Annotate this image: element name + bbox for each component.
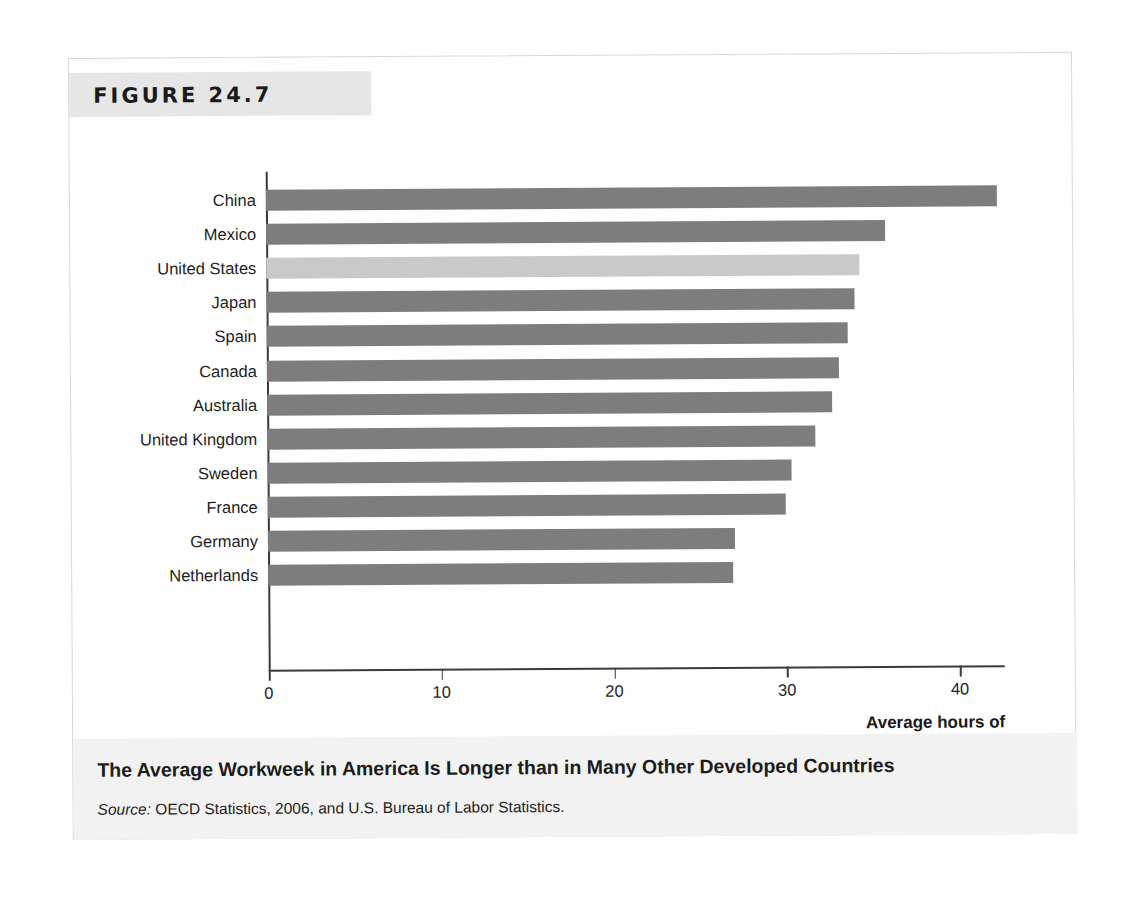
category-label-canada: Canada	[77, 361, 257, 384]
bar-japan	[266, 289, 854, 314]
x-tick-40	[960, 666, 962, 677]
x-tick-0	[269, 670, 271, 681]
figure-footer: The Average Workweek in America Is Longe…	[73, 733, 1078, 840]
bar-france	[268, 494, 787, 518]
bar-sweden	[267, 459, 791, 483]
category-label-japan: Japan	[76, 293, 256, 316]
category-label-united-kingdom: United Kingdom	[77, 430, 257, 453]
source-body: OECD Statistics, 2006, and U.S. Bureau o…	[151, 798, 565, 818]
x-axis-line	[269, 665, 1005, 671]
category-label-text: United States	[76, 259, 256, 279]
category-label-text: Australia	[77, 395, 257, 415]
x-tick-label-0: 0	[247, 684, 291, 703]
category-label-china: China	[76, 191, 256, 214]
category-label-france: France	[78, 498, 258, 521]
category-label-mexico: Mexico	[76, 225, 256, 248]
figure-number-label: FIGURE 24.7	[93, 83, 272, 108]
x-axis-title-line1: Average hours of	[684, 711, 1006, 735]
category-label-text: Canada	[77, 361, 257, 381]
category-label-text: China	[76, 191, 256, 211]
category-label-text: Sweden	[77, 464, 257, 484]
bar-spain	[267, 323, 848, 348]
bar-mexico	[266, 220, 885, 245]
x-tick-10	[442, 669, 444, 680]
category-label-text: France	[78, 498, 258, 518]
category-label-united-states: United States	[76, 259, 256, 282]
category-label-sweden: Sweden	[77, 464, 257, 487]
bar-china	[266, 185, 997, 210]
category-label-text: United Kingdom	[77, 430, 257, 450]
bar-canada	[267, 357, 839, 381]
category-label-spain: Spain	[77, 327, 257, 350]
x-tick-label-40: 40	[938, 679, 982, 698]
source-prefix: Source:	[98, 801, 152, 818]
bar-united-states	[266, 254, 859, 279]
category-label-text: Netherlands	[78, 566, 258, 586]
y-axis-line	[266, 172, 271, 670]
category-label-australia: Australia	[77, 395, 257, 418]
x-tick-label-10: 10	[420, 683, 464, 702]
bar-united-kingdom	[267, 425, 815, 449]
category-label-text: Mexico	[76, 225, 256, 245]
category-label-text: Spain	[77, 327, 257, 347]
category-label-text: Germany	[78, 532, 258, 552]
figure-caption: The Average Workweek in America Is Longe…	[97, 754, 894, 782]
x-tick-30	[787, 667, 789, 678]
x-tick-label-20: 20	[592, 682, 636, 701]
figure-source: Source: OECD Statistics, 2006, and U.S. …	[98, 798, 565, 819]
bar-germany	[268, 528, 735, 552]
x-tick-label-30: 30	[765, 680, 809, 699]
category-label-netherlands: Netherlands	[78, 566, 258, 589]
x-tick-20	[614, 668, 616, 679]
chart-plot-area: ChinaMexicoUnited StatesJapanSpainCanada…	[69, 111, 1077, 737]
bar-australia	[267, 391, 832, 415]
bar-netherlands	[268, 562, 733, 586]
category-label-germany: Germany	[78, 532, 258, 555]
category-label-text: Japan	[76, 293, 256, 313]
figure-number-band: FIGURE 24.7	[69, 71, 371, 117]
figure-panel: FIGURE 24.7 ChinaMexicoUnited StatesJapa…	[68, 52, 1077, 840]
